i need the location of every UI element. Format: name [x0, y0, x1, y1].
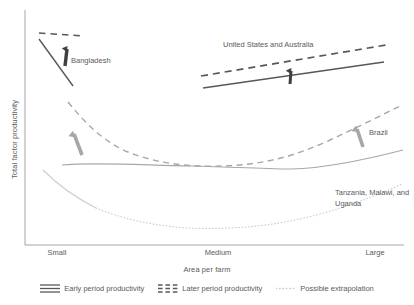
- series-label-tanzania: Tanzania, Malawi, and Uganda: [335, 188, 413, 209]
- series-bangladesh-early: [39, 39, 73, 86]
- series-label-bangladesh: Bangladesh: [71, 56, 111, 67]
- legend-entry-extrapolation: Possible extrapolation: [276, 283, 373, 294]
- x-tick-small: Small: [22, 248, 92, 257]
- legend-entry-later: Later period productivity: [158, 283, 262, 294]
- axis-lines: [25, 10, 404, 245]
- legend-swatch-dashed-icon: [158, 283, 178, 294]
- legend-swatch-solid-icon: [40, 283, 60, 294]
- chart-figure: Total factor productivity Area per farm …: [0, 0, 414, 305]
- series-brazil-early: [62, 150, 403, 169]
- x-tick-large: Large: [340, 248, 410, 257]
- arrow-bangladesh-icon: [65, 49, 67, 66]
- legend-label-extrapolation: Possible extrapolation: [300, 284, 373, 293]
- arrow-usa-australia-icon: [290, 71, 291, 84]
- arrow-brazil-icon: [357, 129, 363, 147]
- series-label-usa-australia: United States and Australia: [223, 40, 313, 51]
- series-brazil-later: [68, 102, 400, 166]
- x-axis-title: Area per farm: [0, 265, 414, 274]
- series-bangladesh-later: [39, 33, 84, 36]
- legend-label-later: Later period productivity: [182, 284, 262, 293]
- y-axis-title: Total factor productivity: [10, 80, 19, 200]
- chart-plot-area: [0, 0, 414, 305]
- arrow-smallholder-icon: [74, 134, 82, 155]
- series-label-brazil: Brazil: [369, 128, 388, 139]
- series-usa-australia-early: [203, 62, 384, 88]
- chart-legend: Early period productivity Later period p…: [0, 283, 414, 294]
- legend-swatch-dotted-icon: [276, 283, 296, 294]
- legend-label-early: Early period productivity: [64, 284, 144, 293]
- legend-entry-early: Early period productivity: [40, 283, 144, 294]
- x-tick-medium: Medium: [183, 248, 253, 257]
